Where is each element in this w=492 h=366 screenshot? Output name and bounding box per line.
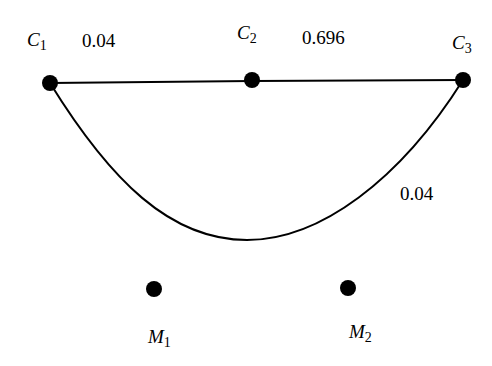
label-c2: C2: [237, 23, 257, 46]
label-m1-name: M: [148, 326, 164, 347]
node-m1: [146, 281, 162, 297]
graph-diagram: C1 0.04 C2 0.696 C3 0.04 M1 M2: [0, 0, 492, 366]
label-c2-name: C: [237, 22, 250, 43]
label-c1-sub: 1: [40, 38, 47, 53]
node-c1: [42, 75, 58, 91]
node-m2: [340, 280, 356, 296]
weight-c1-c2: 0.04: [82, 31, 115, 50]
label-m2: M2: [349, 322, 372, 345]
edge-c1-c3-curve: [50, 80, 463, 240]
label-c2-sub: 2: [250, 31, 257, 46]
edge-c2-c3: [252, 80, 463, 81]
label-c3: C3: [452, 33, 472, 56]
node-c2: [244, 72, 260, 88]
label-m1-sub: 1: [164, 335, 171, 350]
label-m2-name: M: [349, 321, 365, 342]
label-c3-name: C: [452, 32, 465, 53]
weight-c2-c3: 0.696: [302, 28, 345, 47]
label-c3-sub: 3: [465, 41, 472, 56]
weight-c1-c3: 0.04: [400, 184, 433, 203]
node-c3: [455, 72, 471, 88]
label-c1: C1: [27, 30, 47, 53]
label-m1: M1: [148, 327, 171, 350]
label-c1-name: C: [27, 29, 40, 50]
label-m2-sub: 2: [365, 330, 372, 345]
edge-c1-c2: [50, 81, 252, 83]
